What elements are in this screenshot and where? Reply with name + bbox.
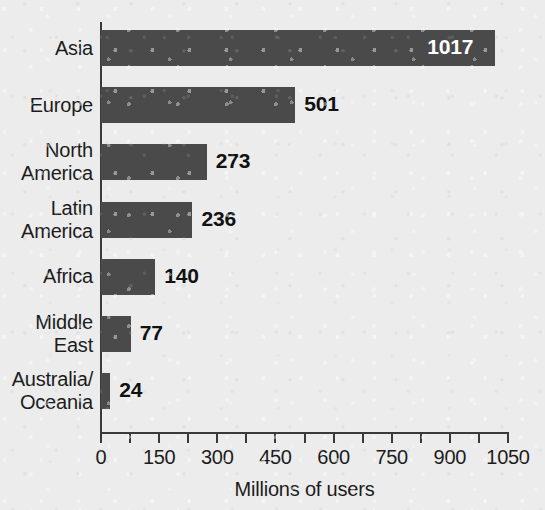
x-tick-label: 750 [375, 446, 407, 469]
bar-value-label: 24 [119, 378, 142, 402]
x-tick-major [216, 434, 218, 443]
x-tick-label: 600 [317, 446, 349, 469]
bar[interactable] [101, 144, 207, 180]
bar-value-label: 140 [164, 264, 198, 288]
x-tick-minor [129, 434, 131, 443]
x-tick-minor [420, 434, 422, 443]
category-label: Europe [30, 94, 93, 117]
x-tick-major [274, 434, 276, 443]
bar[interactable] [101, 202, 192, 238]
bar-value-label: 1017 [427, 35, 473, 59]
bar[interactable] [101, 259, 155, 295]
x-tick-label: 0 [96, 446, 107, 469]
category-label: North America [21, 139, 93, 185]
x-tick-major [100, 434, 102, 443]
x-tick-minor [362, 434, 364, 443]
x-tick-label: 300 [201, 446, 233, 469]
x-tick-minor [245, 434, 247, 443]
bar-value-label: 77 [140, 321, 163, 345]
x-tick-major [158, 434, 160, 443]
x-tick-minor [304, 434, 306, 443]
x-tick-major [391, 434, 393, 443]
x-tick-minor [187, 434, 189, 443]
x-tick-label: 900 [434, 446, 466, 469]
x-tick-label: 450 [259, 446, 291, 469]
x-tick-minor [478, 434, 480, 443]
x-tick-major [333, 434, 335, 443]
x-tick-label: 150 [143, 446, 175, 469]
x-tick-major [507, 434, 509, 443]
category-label: Africa [43, 265, 93, 288]
x-axis-title: Millions of users [100, 478, 509, 501]
x-tick-label: 1050 [486, 446, 529, 469]
bar-value-label: 236 [201, 207, 235, 231]
bar[interactable] [101, 373, 110, 409]
x-tick-major [449, 434, 451, 443]
category-label: Middle East [35, 311, 93, 357]
category-label: Latin America [21, 197, 93, 243]
bar-chart: 01503004506007509001050 Asia1017Europe50… [0, 0, 545, 510]
bar[interactable] [101, 316, 131, 352]
category-label: Australia/ Oceania [12, 368, 93, 414]
bar-value-label: 273 [216, 149, 250, 173]
bar-value-label: 501 [304, 92, 338, 116]
category-label: Asia [55, 37, 93, 60]
bar[interactable] [101, 87, 295, 123]
